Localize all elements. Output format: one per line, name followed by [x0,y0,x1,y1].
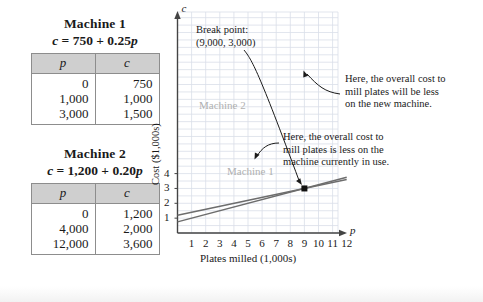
annotation-break-point-line2: (9,000, 3,000) [196,37,256,50]
annotation-new-machine-line2: mill plates will be less [345,86,446,99]
x-axis-symbol: p [350,224,356,236]
cell-p: 0 [31,74,95,93]
column-header-p: p [31,54,95,74]
y-tick-label-2: 2 [152,196,170,208]
machine-2-formula-body: = 1,200 + 0.20 [53,163,136,178]
annotation-current-machine-line2: mill plates is less on the [283,144,389,157]
figure-page: Machine 1 c = 750 + 0.25p p c 0 750 1,00… [0,0,483,302]
annotation-new-machine-line1: Here, the overall cost to [345,73,446,86]
annotation-current-machine: Here, the overall cost to mill plates is… [283,131,389,169]
break-point-marker [301,185,307,191]
annotation-current-machine-line1: Here, the overall cost to [283,131,389,144]
y-axis-symbol: c [182,2,187,14]
column-header-p: p [31,184,95,204]
cell-p: 4,000 [31,222,95,237]
annotation-new-machine: Here, the overall cost to mill plates wi… [345,73,446,111]
series-label-machine-2: Machine 2 [199,99,246,111]
machine-1-formula-body: = 750 + 0.25 [58,33,131,48]
cell-p: 12,000 [31,237,95,255]
x-tick-label-12: 12 [337,237,357,249]
annotation-break-point: Break point: (9,000, 3,000) [196,24,256,49]
series-label-machine-1: Machine 1 [227,165,274,177]
y-tick-label-3: 3 [152,181,170,193]
cell-p: 3,000 [31,107,95,125]
machine-1-formula-p: p [131,33,138,48]
annotation-current-machine-line3: machine currently in use. [283,156,389,169]
annotation-break-point-line1: Break point: [196,24,256,37]
x-axis-title: Plates milled (1,000s) [200,252,296,264]
cost-comparison-chart: c p Cost ($1,000s) Plates milled (1,000s… [140,0,483,286]
annotation-new-machine-line3: on the new machine. [345,98,446,111]
y-tick-label-4: 4 [152,167,170,179]
y-tick-label-1: 1 [152,211,170,223]
page-bottom-shadow [0,286,483,302]
annotation-leader-arrow [303,71,340,95]
cell-p: 0 [31,204,95,223]
cell-p: 1,000 [31,92,95,107]
